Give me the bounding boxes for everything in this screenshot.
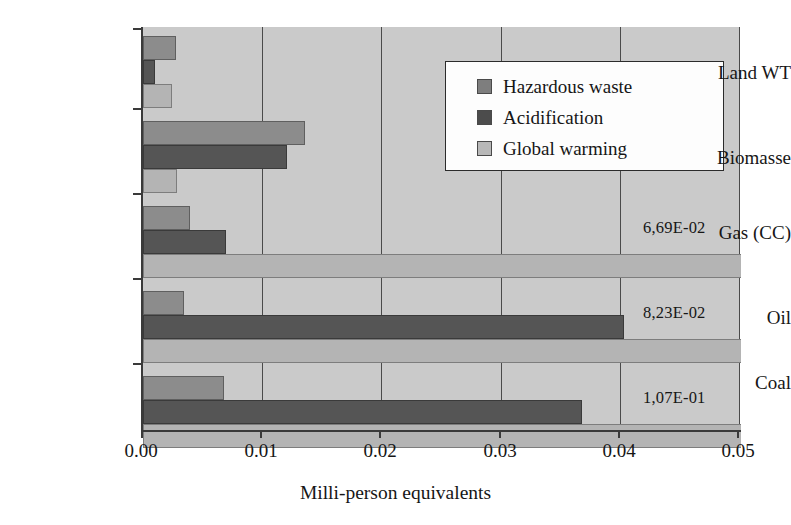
legend-swatch-icon-acidification	[477, 110, 492, 125]
bar-coal-acidification	[143, 400, 582, 424]
bar-land-wt-hazardous-waste	[143, 36, 176, 60]
bar-chart: 6,69E-02 8,23E-02 1,07E-01 Hazardous was…	[0, 0, 791, 525]
category-label-coal: Coal	[663, 372, 791, 394]
x-tick-label-0.04: 0.04	[602, 440, 635, 462]
y-tick-mark-biomasse	[133, 193, 142, 195]
x-tick-label-0.03: 0.03	[483, 440, 516, 462]
x-axis-line	[141, 430, 741, 432]
bar-oil-acidification	[143, 315, 624, 339]
legend-label-acidification: Acidification	[503, 107, 603, 129]
y-tick-mark-gas-cc	[133, 278, 142, 280]
bar-biomasse-global-warming	[143, 169, 177, 193]
bar-biomasse-acidification	[143, 145, 287, 169]
x-tick-label-0.02: 0.02	[363, 440, 396, 462]
x-tick-label-0.00: 0.00	[124, 440, 157, 462]
bar-gas-cc-hazardous-waste	[143, 206, 190, 230]
x-tick-mark-0.05	[737, 430, 739, 438]
category-label-oil: Oil	[663, 307, 791, 329]
y-tick-mark-land-wt	[133, 108, 142, 110]
x-tick-mark-0.01	[260, 430, 262, 438]
gridline-0.02	[381, 27, 382, 430]
bar-gas-cc-global-warming	[143, 254, 741, 278]
bar-biomasse-hazardous-waste	[143, 121, 305, 145]
category-label-gas-cc: Gas (CC)	[663, 222, 791, 244]
legend-label-hazardous-waste: Hazardous waste	[503, 76, 632, 98]
bar-coal-hazardous-waste	[143, 376, 224, 400]
x-axis-title: Milli-person equivalents	[0, 482, 791, 504]
x-tick-label-0.05: 0.05	[721, 440, 754, 462]
bar-oil-hazardous-waste	[143, 291, 184, 315]
bar-land-wt-acidification	[143, 60, 155, 84]
legend-label-global-warming: Global warming	[503, 138, 627, 160]
category-label-land-wt: Land WT	[663, 62, 791, 84]
legend-swatch-icon-hazardous-waste	[477, 79, 492, 94]
plot-area: 6,69E-02 8,23E-02 1,07E-01 Hazardous was…	[141, 27, 739, 430]
legend-item-acidification: Acidification	[477, 102, 723, 133]
x-tick-label-0.01: 0.01	[244, 440, 277, 462]
legend-swatch-icon-global-warming	[477, 141, 492, 156]
x-tick-mark-0.02	[379, 430, 381, 438]
y-tick-mark-oil	[133, 363, 142, 365]
gridline-0.01	[262, 27, 263, 430]
bar-land-wt-global-warming	[143, 84, 172, 108]
x-tick-mark-0.03	[499, 430, 501, 438]
bar-coal-global-warming	[143, 424, 741, 448]
y-tick-mark-top	[133, 28, 142, 30]
x-tick-mark-0.04	[618, 430, 620, 438]
category-label-biomasse: Biomasse	[663, 147, 791, 169]
bar-oil-global-warming	[143, 339, 741, 363]
bar-gas-cc-acidification	[143, 230, 226, 254]
x-tick-mark-0.00	[141, 430, 143, 438]
